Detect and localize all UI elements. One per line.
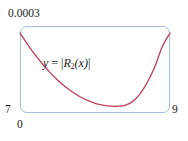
y-axis-max-label: 0.0003 bbox=[8, 8, 40, 20]
equation-equals: = bbox=[51, 56, 58, 70]
x-axis-max-label: 9 bbox=[172, 104, 178, 116]
equation-r: R bbox=[64, 56, 71, 70]
equation-argument: (x) bbox=[75, 56, 88, 70]
x-axis-min-label: 0 bbox=[17, 119, 23, 131]
equation-y: y bbox=[43, 56, 48, 70]
curve-equation-label: y = |R2(x)| bbox=[43, 57, 90, 71]
y-axis-min-label: 7 bbox=[5, 104, 11, 116]
equation-abs-close: | bbox=[88, 56, 90, 70]
remainder-bound-figure: 0.0003 7 0 9 y = |R2(x)| bbox=[0, 0, 188, 141]
